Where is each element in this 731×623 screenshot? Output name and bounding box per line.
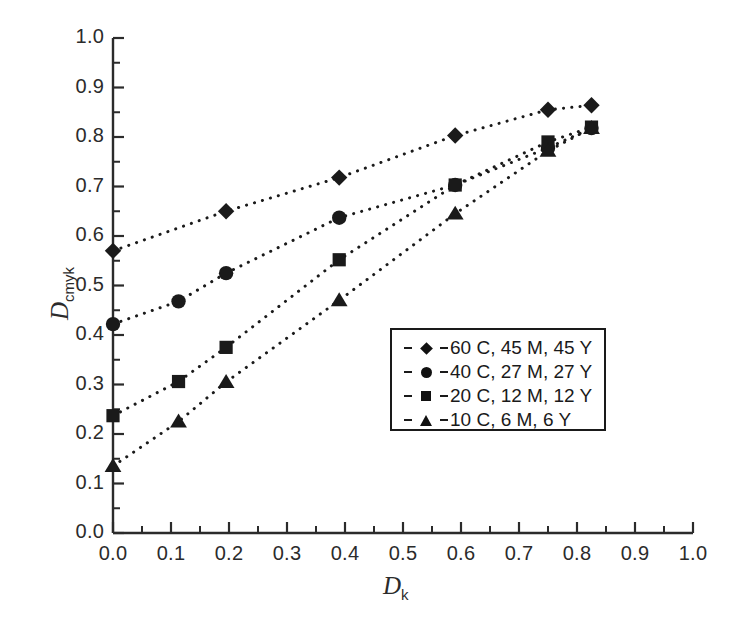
x-axis-tick-label: 0.8 [547,542,607,565]
legend-item-label: 40 C, 27 M, 27 Y [448,361,592,383]
legend-dash-right [440,419,448,421]
data-point-square [220,341,233,354]
data-point-diamond [331,169,347,185]
x-axis-tick-label: 0.6 [431,542,491,565]
y-axis-tick-label: 0.0 [52,520,104,543]
y-axis-tick-label: 0.3 [52,372,104,395]
legend-dash-right [440,395,448,397]
legend-item: 20 C, 12 M, 12 Y [404,384,604,408]
data-point-circle [106,317,120,331]
legend-dash-right [440,347,448,349]
y-axis-tick-label: 0.6 [52,223,104,246]
y-axis-tick-label: 0.9 [52,75,104,98]
x-axis-tick-label: 1.0 [663,542,723,565]
data-point-square [449,178,462,191]
data-point-triangle [331,292,348,306]
data-point-diamond [540,102,556,118]
y-axis-title-symbol: D [46,302,73,320]
y-axis-tick-label: 0.2 [52,421,104,444]
data-point-triangle [105,458,122,472]
data-point-diamond [218,203,234,219]
legend-glyph-diamond-icon [420,342,433,355]
legend-glyph-square-icon [421,391,431,401]
data-point-circle [219,266,233,280]
x-axis-tick-label: 0.3 [257,542,317,565]
data-point-circle [332,210,346,224]
y-axis-title: Dcmyk [46,267,77,320]
data-point-diamond [105,243,121,259]
data-point-triangle [170,414,187,428]
legend-item: 60 C, 45 M, 45 Y [404,336,604,360]
legend-marker-square [404,386,448,406]
y-axis-tick-label: 0.4 [52,322,104,345]
legend-item-label: 20 C, 12 M, 12 Y [448,385,592,407]
x-axis-title: Dk [383,572,409,603]
y-axis-tick-label: 1.0 [52,25,104,48]
x-axis-tick-label: 0.7 [489,542,549,565]
legend-glyph-circle-icon [421,367,432,378]
y-axis-tick-label: 0.1 [52,471,104,494]
legend-dash-left [404,419,412,421]
legend-dash-right [440,371,448,373]
legend-glyph-triangle-icon [420,415,432,426]
x-axis-tick-label: 0.2 [199,542,259,565]
data-point-square [333,253,346,266]
series-line [113,105,592,251]
legend-dash-left [404,371,412,373]
legend-item-label: 60 C, 45 M, 45 Y [448,337,592,359]
legend-item: 10 C, 6 M, 6 Y [404,408,604,432]
legend-marker-circle [404,362,448,382]
x-axis-title-subscript: k [401,586,409,603]
data-point-square [106,409,119,422]
plot-canvas [0,0,731,623]
legend-item: 40 C, 27 M, 27 Y [404,360,604,384]
data-point-circle [171,294,185,308]
x-axis-tick-label: 0.9 [605,542,665,565]
y-axis-title-subscript: cmyk [60,267,77,302]
data-point-diamond [583,97,599,113]
y-axis-tick-label: 0.8 [52,124,104,147]
x-axis-tick-label: 0.4 [315,542,375,565]
legend-dash-left [404,347,412,349]
legend-marker-diamond [404,338,448,358]
data-point-diamond [447,127,463,143]
chart-figure: 0.00.10.20.30.40.50.60.70.80.91.00.00.10… [0,0,731,623]
legend-dash-left [404,395,412,397]
legend: 60 C, 45 M, 45 Y40 C, 27 M, 27 Y20 C, 12… [390,328,606,431]
data-point-square [172,375,185,388]
data-point-triangle [447,206,464,220]
axes [113,38,693,533]
data-series [105,97,600,259]
x-axis-title-symbol: D [383,572,401,599]
x-axis-tick-label: 0.1 [141,542,201,565]
x-axis-tick-label: 0.0 [83,542,143,565]
legend-marker-triangle [404,410,448,430]
y-axis-tick-label: 0.7 [52,174,104,197]
legend-item-label: 10 C, 6 M, 6 Y [448,409,571,431]
x-axis-tick-label: 0.5 [373,542,433,565]
